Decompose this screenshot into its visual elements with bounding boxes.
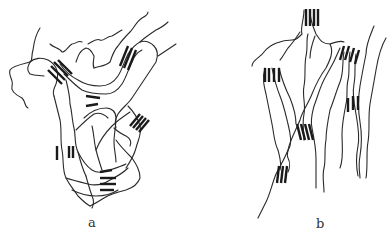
diagram-svg [0,0,392,237]
panel-a-label: a [88,216,96,229]
polymer-chain-diagram: a b [0,0,392,237]
panel-b-chains [252,10,386,218]
panel-a-chains [10,12,176,208]
panel-b-label: b [316,217,324,230]
